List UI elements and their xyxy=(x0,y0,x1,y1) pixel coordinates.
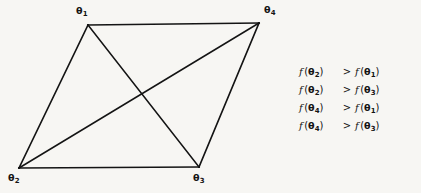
graph-edge-theta1-theta3 xyxy=(88,25,199,167)
equation-lhs-term: f(θ2) xyxy=(299,84,339,97)
equation-rhs-term: f(θ1) xyxy=(355,102,395,115)
graph-vertex-theta2 xyxy=(18,167,20,169)
equation-lhs-term: f(θ4) xyxy=(299,120,339,133)
comparison-operator: > xyxy=(339,84,355,95)
equation-lhs-term: f(θ2) xyxy=(299,66,339,79)
vertex-label-theta4: θ4 xyxy=(264,4,276,17)
figure-canvas: θ1θ2θ3θ4 f(θ2)>f(θ1)f(θ2)>f(θ3)f(θ4)>f(θ… xyxy=(0,0,421,193)
vertex-label-subscript: 4 xyxy=(271,9,276,17)
close-paren: ) xyxy=(320,66,324,77)
comparison-operator: > xyxy=(339,120,355,131)
equation-rhs-term: f(θ3) xyxy=(355,120,395,133)
close-paren: ) xyxy=(376,120,380,131)
graph-edge-theta3-theta4 xyxy=(199,23,259,167)
equation-row: f(θ4)>f(θ1) xyxy=(299,102,417,120)
close-paren: ) xyxy=(320,102,324,113)
vertex-label-symbol: θ xyxy=(193,172,200,183)
graph-vertex-theta1 xyxy=(87,24,89,26)
graph-edge-theta1-theta4 xyxy=(88,23,259,25)
graph-edge-theta2-theta3 xyxy=(19,167,199,168)
equation-rhs-term: f(θ1) xyxy=(355,66,395,79)
equation-row: f(θ2)>f(θ3) xyxy=(299,84,417,102)
close-paren: ) xyxy=(376,66,380,77)
vertex-label-subscript: 3 xyxy=(200,177,205,185)
graph-vertex-theta3 xyxy=(198,166,200,168)
vertex-label-theta2: θ2 xyxy=(8,172,20,185)
comparison-operator: > xyxy=(339,66,355,77)
close-paren: ) xyxy=(320,120,324,131)
comparison-operator: > xyxy=(339,102,355,113)
close-paren: ) xyxy=(320,84,324,95)
vertex-label-subscript: 1 xyxy=(83,10,88,18)
equation-rhs-term: f(θ3) xyxy=(355,84,395,97)
graph-vertex-theta4 xyxy=(258,22,260,24)
vertex-label-subscript: 2 xyxy=(15,177,20,185)
equation-list: f(θ2)>f(θ1)f(θ2)>f(θ3)f(θ4)>f(θ1)f(θ4)>f… xyxy=(299,66,417,138)
vertex-label-symbol: θ xyxy=(76,5,83,16)
vertex-label-theta3: θ3 xyxy=(193,172,205,185)
close-paren: ) xyxy=(376,102,380,113)
close-paren: ) xyxy=(376,84,380,95)
graph-edge-theta2-theta4 xyxy=(19,23,259,168)
vertex-label-symbol: θ xyxy=(264,4,271,15)
vertex-label-symbol: θ xyxy=(8,172,15,183)
vertex-label-theta1: θ1 xyxy=(76,5,88,18)
edge-layer xyxy=(19,23,259,168)
equation-row: f(θ2)>f(θ1) xyxy=(299,66,417,84)
equation-row: f(θ4)>f(θ3) xyxy=(299,120,417,138)
equation-lhs-term: f(θ4) xyxy=(299,102,339,115)
